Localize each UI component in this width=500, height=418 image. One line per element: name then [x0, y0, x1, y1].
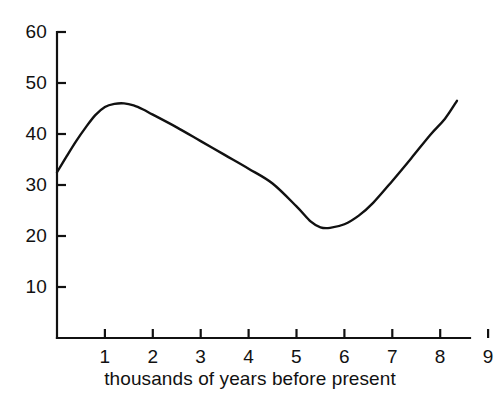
x-axis-tick-label: 3: [195, 346, 206, 368]
x-axis-tick-label: 2: [147, 346, 158, 368]
x-axis-tick-label: 1: [100, 346, 111, 368]
y-axis-tick-label: 30: [0, 174, 47, 196]
y-axis-tick-label: 20: [0, 225, 47, 247]
y-axis-tick-label: 50: [0, 72, 47, 94]
x-axis-tick-label: 8: [435, 346, 446, 368]
y-axis-tick-label: 10: [0, 276, 47, 298]
x-axis-tick-label: 9: [483, 346, 494, 368]
y-axis-tick-label: 60: [0, 21, 47, 43]
data-series-line: [57, 101, 457, 228]
x-axis-tick-label: 4: [243, 346, 254, 368]
x-axis-tick-label: 7: [387, 346, 398, 368]
x-axis-title: thousands of years before present: [0, 368, 500, 390]
x-axis-tick-label: 6: [339, 346, 350, 368]
chart-axes: [57, 32, 470, 338]
x-axis-tick-label: 5: [291, 346, 302, 368]
chart-figure: 102030405060 123456789 thousands of year…: [0, 0, 500, 418]
x-axis-ticks: [105, 329, 488, 338]
y-axis-tick-label: 40: [0, 123, 47, 145]
